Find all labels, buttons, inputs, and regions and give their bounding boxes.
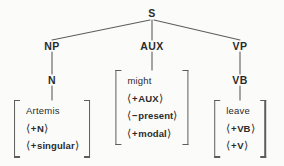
tree-node-s: S xyxy=(148,7,155,19)
syntax-tree-figure: S NP AUX VP N VB Artemis ⟨+N⟩ ⟨+singular… xyxy=(0,0,284,166)
bracket-right-icon xyxy=(259,100,266,158)
matrix-row: ⟨+modal⟩ xyxy=(127,125,177,143)
feature-name: AUX xyxy=(138,93,158,104)
feature-matrix-aux: might ⟨+AUX⟩ ⟨−present⟩ ⟨+modal⟩ xyxy=(115,70,188,145)
feature-sign: + xyxy=(30,123,37,134)
feature-matrix-rows: might ⟨+AUX⟩ ⟨−present⟩ ⟨+modal⟩ xyxy=(122,70,181,145)
angle-close-icon: ⟩ xyxy=(167,127,171,139)
feature-sign: + xyxy=(132,93,139,104)
bracket-right-icon xyxy=(83,100,90,158)
feature-name: N xyxy=(37,123,44,134)
tree-node-np: NP xyxy=(44,40,59,52)
matrix-row: leave xyxy=(226,103,255,120)
edge-s-vp xyxy=(154,20,240,40)
feature-sign: + xyxy=(30,140,37,151)
tree-node-vp: VP xyxy=(233,40,248,52)
matrix-row: ⟨+singular⟩ xyxy=(26,137,79,155)
angle-close-icon: ⟩ xyxy=(251,122,255,134)
lexical-item: Artemis xyxy=(26,105,60,116)
feature-sign: + xyxy=(230,140,237,151)
feature-name: singular xyxy=(37,140,75,151)
angle-close-icon: ⟩ xyxy=(244,139,248,151)
edge-s-np xyxy=(52,20,150,40)
angle-close-icon: ⟩ xyxy=(173,109,177,121)
matrix-row: ⟨+N⟩ xyxy=(26,120,79,138)
matrix-row: ⟨−present⟩ xyxy=(127,107,177,125)
angle-close-icon: ⟩ xyxy=(159,92,163,104)
bracket-left-icon xyxy=(214,100,221,158)
feature-matrix-rows: Artemis ⟨+N⟩ ⟨+singular⟩ xyxy=(21,100,83,158)
feature-matrix-vp: leave ⟨+VB⟩ ⟨+V⟩ xyxy=(214,100,266,158)
feature-sign: + xyxy=(230,123,237,134)
feature-sign: + xyxy=(132,128,139,139)
bracket-left-icon xyxy=(14,100,21,158)
feature-sign: − xyxy=(132,110,139,121)
matrix-row: ⟨+VB⟩ xyxy=(226,120,255,138)
tree-node-aux: AUX xyxy=(140,40,163,52)
bracket-left-icon xyxy=(115,70,122,145)
matrix-row: ⟨+V⟩ xyxy=(226,137,255,155)
lexical-item: leave xyxy=(226,105,250,116)
angle-close-icon: ⟩ xyxy=(44,122,48,134)
feature-matrix-np: Artemis ⟨+N⟩ ⟨+singular⟩ xyxy=(14,100,90,158)
feature-name: present xyxy=(138,110,173,121)
angle-close-icon: ⟩ xyxy=(75,139,79,151)
lexical-item: might xyxy=(127,75,151,86)
feature-name: VB xyxy=(237,123,250,134)
bracket-right-icon xyxy=(182,70,189,145)
tree-node-vb: VB xyxy=(232,74,247,86)
tree-node-n: N xyxy=(48,74,56,86)
matrix-row: Artemis xyxy=(26,103,79,120)
feature-matrix-rows: leave ⟨+VB⟩ ⟨+V⟩ xyxy=(221,100,259,158)
feature-name: modal xyxy=(138,128,166,139)
matrix-row: ⟨+AUX⟩ xyxy=(127,90,177,108)
matrix-row: might xyxy=(127,73,177,90)
